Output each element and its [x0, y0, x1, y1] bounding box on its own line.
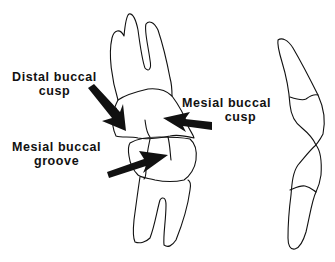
lower-molar [128, 137, 196, 246]
diagram-canvas: Distal buccal cusp Mesial buccal cusp Me… [0, 0, 335, 262]
tooth-occlusion-drawing [0, 0, 335, 262]
label-mesial-buccal-cusp: Mesial buccal cusp [182, 96, 271, 124]
lower-molar-crown [128, 137, 196, 182]
label-mesial-buccal-cusp-line2: cusp [182, 110, 271, 124]
label-distal-buccal-cusp: Distal buccal cusp [12, 70, 97, 98]
label-mesial-buccal-groove-line1: Mesial buccal [12, 140, 101, 154]
lower-molar-groove-2 [168, 137, 171, 160]
side-lower-tooth [288, 145, 321, 249]
label-distal-buccal-cusp-line2: cusp [12, 84, 97, 98]
upper-molar-roots [110, 14, 172, 100]
label-mesial-buccal-groove: Mesial buccal groove [12, 140, 101, 168]
label-distal-buccal-cusp-line1: Distal buccal [12, 70, 97, 84]
side-view-teeth [278, 39, 325, 249]
label-mesial-buccal-groove-line2: groove [12, 154, 101, 168]
label-mesial-buccal-cusp-line1: Mesial buccal [182, 96, 271, 110]
upper-molar-groove [145, 120, 150, 137]
lower-molar-roots [133, 177, 190, 246]
side-upper-tooth [278, 39, 325, 145]
side-upper-tooth-line [290, 95, 318, 100]
side-lower-tooth-line [290, 186, 316, 192]
